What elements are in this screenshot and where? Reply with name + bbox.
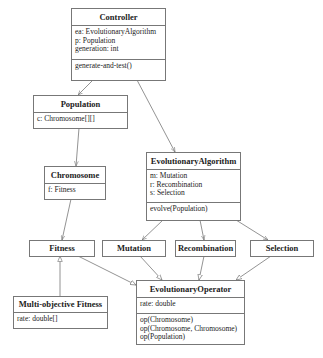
operations: evolve(Population)	[147, 202, 240, 216]
attribute: rate: double	[140, 300, 241, 309]
class-mutation: Mutation	[102, 240, 166, 257]
attribute: f: Fitness	[48, 186, 102, 195]
attributes: rate: double	[137, 297, 244, 313]
attribute: s: Selection	[150, 189, 237, 198]
class-selection: Selection	[250, 240, 314, 257]
class-name: Population	[34, 96, 127, 112]
class-name: Multi-objective Fitness	[14, 297, 107, 312]
edge-selection-eo	[236, 256, 271, 280]
class-fitness: Fitness	[29, 240, 95, 257]
class-name: Selection	[251, 241, 313, 257]
edge-fitness-eo	[78, 256, 136, 285]
attributes: m: Mutation r: Recombination s: Selectio…	[147, 169, 240, 202]
class-population: Population c: Chromosome[][]	[33, 95, 128, 129]
attributes: f: Fitness	[45, 183, 105, 197]
edge-controller-population	[78, 80, 93, 95]
class-recombination: Recombination	[175, 240, 236, 257]
attribute: generation: int	[75, 45, 162, 54]
operations: op(Chromosome) op(Chromosome, Chromosome…	[137, 313, 244, 344]
attribute: rate: double[]	[17, 315, 104, 324]
edge-recombination-eo	[199, 256, 204, 280]
operation: evolve(Population)	[150, 205, 237, 214]
edge-population-chromosome	[76, 128, 79, 166]
class-evolutionary-operator: EvolutionaryOperator rate: double op(Chr…	[136, 280, 245, 345]
edge-controller-ea	[137, 80, 175, 152]
class-name: Fitness	[30, 241, 94, 257]
class-multi-objective-fitness: Multi-objective Fitness rate: double[]	[13, 296, 108, 329]
class-name: EvolutionaryAlgorithm	[147, 153, 240, 169]
operation: op(Population)	[140, 333, 241, 342]
attributes: c: Chromosome[][]	[34, 112, 127, 126]
edge-ea-selection	[236, 220, 268, 240]
class-name: Chromosome	[45, 167, 105, 183]
class-name: Controller	[72, 9, 165, 25]
class-controller: Controller ea: EvolutionaryAlgorithm p: …	[71, 8, 166, 81]
class-name: EvolutionaryOperator	[137, 281, 244, 297]
attributes: rate: double[]	[14, 312, 107, 326]
attribute: c: Chromosome[][]	[37, 115, 124, 124]
operations: generate-and-test()	[72, 59, 165, 73]
edge-chromosome-fitness	[62, 199, 71, 240]
edge-ea-mutation	[142, 220, 163, 240]
edge-ea-recombination	[200, 220, 204, 240]
class-name: Mutation	[103, 241, 165, 257]
class-chromosome: Chromosome f: Fitness	[44, 166, 106, 200]
class-evolutionary-algorithm: EvolutionaryAlgorithm m: Mutation r: Rec…	[146, 152, 241, 221]
attributes: ea: EvolutionaryAlgorithm p: Population …	[72, 25, 165, 59]
class-name: Recombination	[176, 241, 235, 257]
operation: generate-and-test()	[75, 62, 162, 71]
edge-mutation-eo	[140, 256, 162, 280]
